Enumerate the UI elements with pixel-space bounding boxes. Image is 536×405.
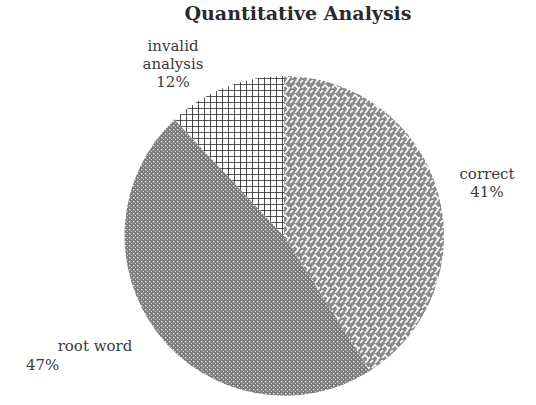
label-text: correct [452, 165, 522, 183]
label-text: analysis [118, 55, 228, 73]
label-text: root word [50, 337, 140, 355]
label-correct: correct 41% [452, 165, 522, 201]
label-percent: 41% [452, 183, 522, 201]
label-root-word-pct: 47% [26, 356, 66, 374]
label-percent: 12% [118, 73, 228, 91]
label-root-word: root word [50, 337, 140, 355]
label-text: invalid [118, 37, 228, 55]
label-invalid-analysis: invalid analysis 12% [118, 37, 228, 91]
